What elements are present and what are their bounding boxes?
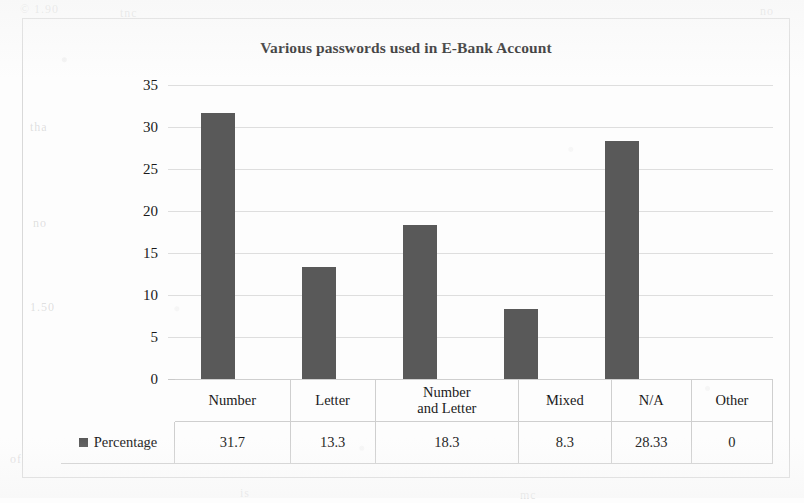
legend-cell-empty — [62, 380, 175, 422]
bar-slot — [269, 85, 370, 379]
y-axis-tick-label: 20 — [143, 203, 158, 220]
category-header-cell: Letter — [290, 380, 375, 422]
ghost-text: is — [240, 486, 250, 501]
value-cell: 18.3 — [375, 422, 518, 464]
value-cell: 8.3 — [519, 422, 612, 464]
bar-slot — [370, 85, 471, 379]
chart-data-table: Number Letter Numberand Letter Mixed N/A… — [61, 379, 773, 464]
value-cell: 13.3 — [290, 422, 375, 464]
y-axis-tick-label: 35 — [143, 77, 158, 94]
ghost-text: mc — [520, 488, 537, 503]
category-label: and Letter — [376, 401, 518, 416]
category-label: Letter — [315, 392, 350, 408]
bar-slot — [571, 85, 672, 379]
category-header-cell: Number — [175, 380, 291, 422]
bar-slot — [168, 85, 269, 379]
plot-area — [168, 85, 773, 379]
y-axis-tick-label: 30 — [143, 119, 158, 136]
ghost-text: © 1.90 — [20, 2, 59, 17]
ghost-text: no — [760, 4, 774, 19]
table-row-values: Percentage 31.7 13.3 18.3 8.3 28.33 0 — [62, 422, 773, 464]
category-label: Number — [209, 392, 257, 408]
square-marker-icon — [79, 438, 88, 447]
chart-container: Various passwords used in E-Bank Account… — [22, 18, 790, 478]
category-label: Mixed — [546, 392, 584, 408]
bar-series-percentage — [168, 85, 773, 379]
bar — [605, 141, 639, 379]
legend-label: Percentage — [94, 434, 158, 451]
category-header-cell: Numberand Letter — [375, 380, 518, 422]
category-label: Number — [423, 384, 471, 400]
bar — [504, 309, 538, 379]
bar — [302, 267, 336, 379]
y-axis-tick-label: 5 — [151, 329, 159, 346]
bar — [201, 113, 235, 379]
table-row-categories: Number Letter Numberand Letter Mixed N/A… — [62, 380, 773, 422]
bar-slot — [470, 85, 571, 379]
y-axis: 05101520253035 — [118, 85, 158, 379]
y-axis-tick-label: 15 — [143, 245, 158, 262]
legend-cell-percentage: Percentage — [62, 422, 175, 464]
y-axis-tick-label: 10 — [143, 287, 158, 304]
y-axis-tick-label: 25 — [143, 161, 158, 178]
value-cell: 28.33 — [611, 422, 691, 464]
bar-slot — [672, 85, 773, 379]
bar — [403, 225, 437, 379]
category-label: N/A — [639, 392, 664, 408]
value-cell: 0 — [691, 422, 772, 464]
category-label: Other — [715, 392, 748, 408]
value-cell: 31.7 — [175, 422, 291, 464]
category-header-cell: Mixed — [519, 380, 612, 422]
category-header-cell: Other — [691, 380, 772, 422]
category-header-cell: N/A — [611, 380, 691, 422]
ghost-text: of — [10, 452, 22, 467]
